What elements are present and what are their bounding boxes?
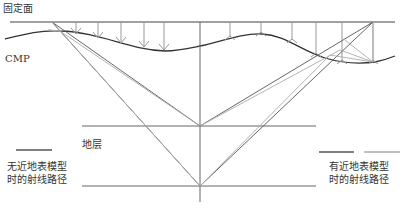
legend-right-line2: 时的射线路径 (327, 173, 391, 186)
cmp-label: CMP (5, 52, 30, 65)
rays-with-model (48, 22, 373, 186)
legend-left-line1: 无近地表模型 (6, 160, 68, 173)
static-markers-right (225, 22, 378, 64)
datum-label: 固定面 (3, 2, 33, 15)
legend-left-text: 无近地表模型 时的射线路径 (6, 160, 68, 186)
rays-without-model (52, 22, 373, 186)
legend-right-text: 有近地表模型 时的射线路径 (327, 160, 391, 186)
layer-label: 地层 (82, 138, 102, 151)
legend-right-line1: 有近地表模型 (327, 160, 391, 173)
legend-left-line2: 时的射线路径 (6, 173, 68, 186)
